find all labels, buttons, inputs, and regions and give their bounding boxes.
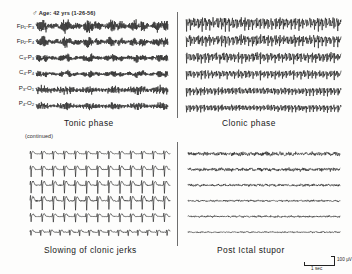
trace-tonic-phase-fp2-f4: [36, 36, 168, 48]
trace-clonic-phase-c3-p3: [186, 52, 341, 64]
trace-post-ictal-stupor-c3-p3: [188, 184, 340, 187]
trace-clonic-phase-fp1-f3: [186, 17, 341, 32]
trace-slowing-of-clonic-jerks-p4-o2: [30, 230, 170, 236]
trace-clonic-phase-p3-o1: [186, 87, 341, 96]
calibration-marker: 100 µV 1 sec: [300, 256, 346, 274]
calibration-amplitude-cap-top: [331, 256, 335, 257]
trace-group-slowing-of-clonic-jerks: [30, 146, 170, 240]
waveform-canvas-post-ictal-stupor: [188, 146, 340, 240]
trace-slowing-of-clonic-jerks-p3-o1: [30, 213, 170, 222]
channel-label-column: Fp1-F3Fp2-F4C3-P3C4-P4P3-O1P4-O2: [0, 0, 36, 120]
trace-post-ictal-stupor-fp2-f4: [188, 167, 340, 171]
waveform-canvas-slowing-of-clonic-jerks: [30, 146, 170, 240]
panel-divider-bottom: [177, 142, 178, 246]
waveform-canvas-tonic-phase: [36, 18, 168, 114]
calibration-amplitude-label: 100 µV: [337, 257, 352, 262]
trace-post-ictal-stupor-p4-o2: [188, 231, 340, 233]
trace-slowing-of-clonic-jerks-c3-p3: [30, 180, 170, 193]
trace-clonic-phase-fp2-f4: [186, 34, 341, 48]
panel-divider-top: [177, 12, 178, 118]
trace-group-clonic-phase: [186, 14, 341, 116]
panel-slowing-of-clonic-jerks: [30, 146, 170, 240]
trace-tonic-phase-c4-p4: [36, 70, 168, 78]
trace-tonic-phase-c3-p3: [36, 54, 168, 63]
trace-slowing-of-clonic-jerks-fp1-f3: [30, 151, 170, 160]
panel-tonic-phase: [36, 18, 168, 114]
channel-label-p3-o1: P3-O1: [19, 84, 34, 92]
channel-label-c3-p3: C3-P3: [19, 53, 34, 61]
trace-tonic-phase-p3-o1: [36, 85, 168, 95]
calibration-time-cap-left: [304, 262, 305, 266]
caption-clonic-phase: Clonic phase: [222, 118, 276, 128]
panel-post-ictal-stupor: [188, 146, 340, 240]
trace-slowing-of-clonic-jerks-fp2-f4: [30, 165, 170, 177]
channel-label-p4-o2: P4-O2: [19, 99, 34, 107]
caption-post-ictal-stupor: Post Ictal stupor: [217, 245, 285, 255]
channel-label-fp1-f3: Fp1-F3: [17, 22, 34, 30]
caption-tonic-phase: Tonic phase: [64, 118, 114, 128]
channel-label-fp2-f4: Fp2-F4: [17, 37, 34, 45]
patient-age-date: Age: 42 yrs (1-26-56): [39, 10, 96, 16]
channel-label-c4-p4: C4-P4: [19, 68, 34, 76]
trace-post-ictal-stupor-fp1-f3: [188, 151, 340, 156]
trace-tonic-phase-p4-o2: [36, 102, 168, 110]
trace-slowing-of-clonic-jerks-c4-p4: [30, 195, 170, 210]
patient-header: ♂Age: 42 yrs (1-26-56): [32, 8, 95, 17]
continued-label: (continued): [25, 133, 53, 139]
trace-tonic-phase-fp1-f3: [36, 19, 168, 33]
caption-slowing-of-clonic-jerks: Slowing of clonic jerks: [44, 245, 137, 255]
trace-group-tonic-phase: [36, 18, 168, 114]
trace-post-ictal-stupor-p3-o1: [188, 215, 340, 217]
trace-post-ictal-stupor-c4-p4: [188, 200, 340, 202]
waveform-canvas-clonic-phase: [186, 14, 341, 116]
panel-clonic-phase: [186, 14, 341, 116]
calibration-time-label: 1 sec: [311, 266, 322, 271]
trace-group-post-ictal-stupor: [188, 146, 340, 240]
trace-clonic-phase-p4-o2: [186, 105, 341, 113]
trace-clonic-phase-c4-p4: [186, 70, 341, 81]
